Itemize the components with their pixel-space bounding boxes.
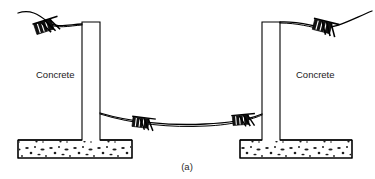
right-footing-aggregate [241, 141, 351, 157]
left-footing-aggregate [19, 141, 131, 157]
left-concrete-label: Concrete [36, 69, 75, 80]
concrete-wall-cable-diagram: Concrete Concrete (a) [0, 0, 375, 179]
right-concrete-label: Concrete [296, 69, 335, 80]
figure-container: Concrete Concrete (a) [0, 0, 375, 179]
figure-caption: (a) [181, 161, 193, 172]
